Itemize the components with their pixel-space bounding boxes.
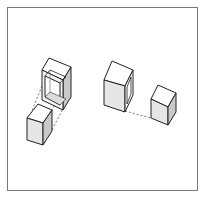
right-large-hollow-cube	[104, 61, 133, 112]
left-lower-cube	[27, 104, 52, 145]
right-small-cube	[151, 85, 176, 125]
left-upper-hollow-cube	[42, 58, 71, 110]
cube-diagram	[0, 0, 207, 197]
right-dashed-connector	[125, 111, 151, 118]
